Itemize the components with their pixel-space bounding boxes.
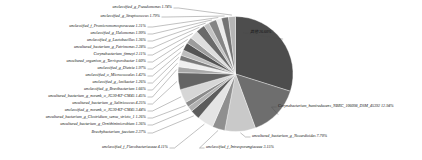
pie-label-norank-unclassified: unclassified_g_norank_o_JG30-KF-CM45 3.4… xyxy=(0,108,146,113)
leader-line xyxy=(162,16,225,17)
leader-line xyxy=(148,106,186,119)
pie-label-amikacter: unclassified_g_Amikacter 1.26% xyxy=(0,80,146,85)
pie-label-petrimonas: uncultured_bacterium_g_Petrimonas 2.28% xyxy=(0,45,146,50)
pie-chart-figure: 其他 26.60%Corynebacterium_humireducens_NB… xyxy=(0,0,422,160)
pie-label-norank-uncultured: uncultured_bacterium_g_norank_o_JG30-KF-… xyxy=(0,94,146,99)
leader-line xyxy=(170,124,205,148)
pie-label-lactobacillus: unclassified_g_Lactobacillus 1.36% xyxy=(0,38,146,43)
pie-label-promicromonosporaceae: unclassified_f_Promicromonosporaceae 1.3… xyxy=(0,24,146,29)
pie-label-intrasporangiaceae: unclassified_f_Intrasporangiaceae 3.15% xyxy=(206,145,274,150)
pie-label-brevibacterium: unclassified_g_Brevibacterium 1.66% xyxy=(0,87,146,92)
pie-label-halomonas: unclassified_g_Halomonas 1.99% xyxy=(0,31,146,36)
pie-label-ornithinimicrobium: uncultured_bacterium_g_Ornithinimicrobiu… xyxy=(0,122,146,127)
leader-line xyxy=(148,46,184,69)
pie-label-micrococcales: unclassified_o_Micrococcales 1.42% xyxy=(0,73,146,78)
pie-label-streptococcus: unclassified_g_Streptococcus 1.79% xyxy=(0,14,160,19)
pie-label-flavobacteriaceae: unclassified_f_Flavobacteriaceae 4.11% xyxy=(0,145,168,150)
leader-line xyxy=(240,133,250,137)
pie-label-clostridium: uncultured_bacterium_g_Clostridium_sensu… xyxy=(0,115,146,120)
leader-line xyxy=(148,116,194,133)
pie-label-nocardioides: uncultured_bacterium_g_Nocardioides 7.70… xyxy=(252,134,327,139)
pie-label-salinicoccus: uncultured_bacterium_g_Salinicoccus 4.25… xyxy=(0,101,146,106)
leader-line xyxy=(148,52,181,76)
leader-line xyxy=(174,8,232,15)
pie-label-other: 其他 26.60% xyxy=(250,30,271,35)
pie-label-corynebacterium-humireducens: Corynebacterium_humireducens_NBRC_106098… xyxy=(278,104,394,109)
leader-line xyxy=(148,81,178,104)
pie-label-brachybacterium: Brachybacterium_faecium 2.37% xyxy=(0,130,146,135)
pie-label-terrisporobacter: uncultured_organism_g_Terrisporobacter 1… xyxy=(0,59,146,64)
pie-label-dietzia: unclassified_g_Dietzia 1.97% xyxy=(0,66,146,71)
leader-line xyxy=(148,63,178,90)
pie-label-pseudomonas: unclassified_g_Pseudomonas 1.74% xyxy=(0,5,172,10)
pie-label-corynebacterium-finneyi: Corynebacterium_finneyi 2.11% xyxy=(0,52,146,57)
